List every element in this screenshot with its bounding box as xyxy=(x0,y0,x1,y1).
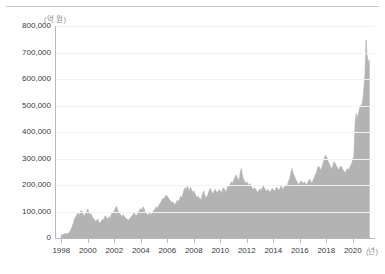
x-tick-mark xyxy=(326,239,327,243)
plot-area xyxy=(56,26,374,238)
x-axis-line xyxy=(55,238,375,239)
x-tick-mark xyxy=(194,239,195,243)
y-tick-label: 300,000 xyxy=(3,154,51,163)
y-tick-label: 700,000 xyxy=(3,48,51,57)
x-axis-unit-label: (년) xyxy=(366,245,378,256)
y-tick-label: 500,000 xyxy=(3,101,51,110)
gridline-y-600000 xyxy=(56,79,374,80)
top-divider-rule xyxy=(6,6,379,7)
x-tick-mark xyxy=(61,239,62,243)
gridline-y-800000 xyxy=(56,26,374,27)
x-tick-mark xyxy=(220,239,221,243)
x-tick-mark xyxy=(353,239,354,243)
x-tick-label: 2020 xyxy=(336,246,370,255)
gridline-y-100000 xyxy=(56,212,374,213)
y-tick-label: 600,000 xyxy=(3,74,51,83)
y-axis-tick-labels: 0100,000200,000300,000400,000500,000600,… xyxy=(0,0,51,274)
gridline-y-400000 xyxy=(56,132,374,133)
x-tick-mark xyxy=(300,239,301,243)
y-tick-label: 100,000 xyxy=(3,207,51,216)
gridline-y-200000 xyxy=(56,185,374,186)
y-tick-label: 200,000 xyxy=(3,180,51,189)
gridline-y-700000 xyxy=(56,53,374,54)
gridline-y-300000 xyxy=(56,159,374,160)
x-tick-mark xyxy=(114,239,115,243)
y-tick-label: 800,000 xyxy=(3,21,51,30)
x-tick-mark xyxy=(273,239,274,243)
x-tick-mark xyxy=(167,239,168,243)
x-tick-mark xyxy=(247,239,248,243)
y-tick-label: 0 xyxy=(3,233,51,242)
area-series-path xyxy=(61,40,369,238)
x-tick-mark xyxy=(88,239,89,243)
x-tick-mark xyxy=(141,239,142,243)
y-tick-label: 400,000 xyxy=(3,127,51,136)
gridline-y-500000 xyxy=(56,106,374,107)
chart-figure: (억 원) 0100,000200,000300,000400,000500,0… xyxy=(0,0,385,274)
